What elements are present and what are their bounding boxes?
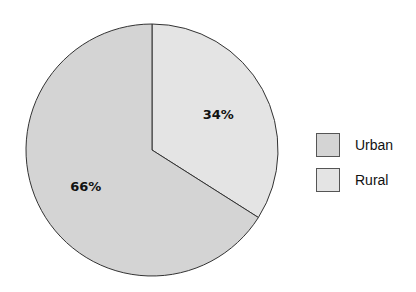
legend: Urban Rural xyxy=(316,127,393,197)
legend-item-rural: Rural xyxy=(316,162,393,197)
legend-swatch-rural xyxy=(316,168,340,192)
legend-swatch-urban xyxy=(316,133,340,157)
slice-label-urban: 66% xyxy=(70,179,101,194)
slice-label-rural: 34% xyxy=(203,107,234,122)
legend-label-urban: Urban xyxy=(355,137,393,153)
legend-label-rural: Rural xyxy=(355,172,388,188)
legend-item-urban: Urban xyxy=(316,127,393,162)
